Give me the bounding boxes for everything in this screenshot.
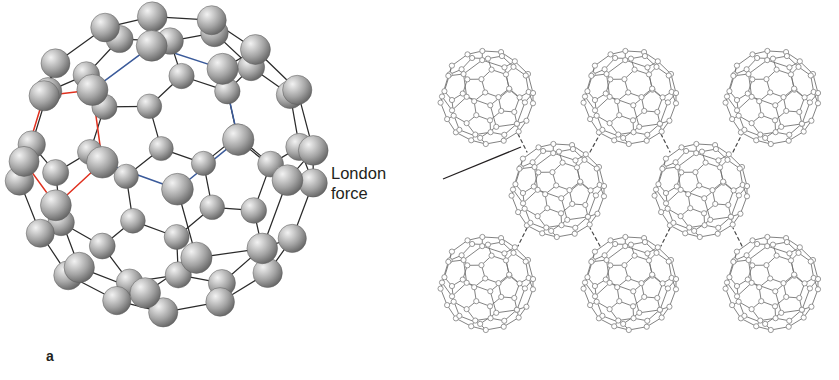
carbon-atom bbox=[40, 190, 71, 221]
carbon-atom bbox=[121, 208, 146, 233]
cage-node bbox=[465, 263, 470, 268]
cage-node bbox=[535, 214, 540, 219]
cage-node bbox=[665, 286, 670, 291]
carbon-atom bbox=[240, 35, 270, 65]
london-force-leader-line bbox=[443, 147, 521, 179]
cage-node bbox=[637, 124, 642, 129]
carbon-atom bbox=[162, 173, 194, 205]
cage-node bbox=[543, 192, 548, 197]
cage-bond bbox=[767, 60, 789, 67]
cage-node bbox=[750, 263, 755, 268]
cage-node bbox=[779, 124, 784, 129]
fullerene-cage bbox=[509, 141, 607, 239]
carbon-atom bbox=[149, 137, 173, 161]
cage-node bbox=[602, 67, 607, 72]
cage-node bbox=[615, 285, 620, 290]
cage-node bbox=[469, 324, 474, 329]
cage-node bbox=[478, 135, 483, 140]
cage-node bbox=[602, 253, 607, 258]
cage-node bbox=[536, 145, 541, 150]
carbon-atom bbox=[200, 195, 225, 220]
cage-node bbox=[512, 245, 517, 250]
carbon-atom bbox=[114, 164, 138, 188]
cage-node bbox=[565, 217, 570, 222]
cage-node bbox=[608, 77, 613, 82]
cage-node bbox=[594, 113, 599, 118]
cage-node bbox=[531, 184, 536, 189]
cage-node bbox=[686, 192, 691, 197]
cage-node bbox=[623, 58, 628, 63]
cage-node bbox=[730, 117, 735, 122]
cage-node bbox=[480, 48, 485, 53]
cage-node bbox=[764, 77, 769, 82]
cage-node bbox=[637, 310, 642, 315]
cage-node bbox=[809, 118, 814, 123]
cage-node bbox=[622, 263, 627, 268]
cage-node bbox=[702, 196, 707, 201]
carbon-atom bbox=[89, 233, 115, 259]
cage-node bbox=[731, 73, 736, 78]
cage-node bbox=[601, 183, 606, 188]
cage-node bbox=[674, 184, 679, 189]
cage-node bbox=[639, 95, 644, 100]
cage-node bbox=[655, 245, 660, 250]
cage-node bbox=[465, 238, 470, 243]
carbon-atom bbox=[29, 81, 59, 111]
cage-node bbox=[716, 225, 721, 230]
carbon-atom bbox=[103, 286, 131, 314]
atom-layer bbox=[5, 2, 328, 327]
cage-node bbox=[667, 304, 672, 309]
cage-node bbox=[522, 286, 527, 291]
cage-node bbox=[653, 187, 658, 192]
cage-node bbox=[469, 241, 474, 246]
cage-node bbox=[607, 307, 612, 312]
cage-node bbox=[499, 108, 504, 113]
cage-bond bbox=[625, 60, 647, 67]
carbon-atom bbox=[197, 6, 226, 35]
cage-node bbox=[659, 129, 664, 134]
cage-node bbox=[774, 67, 779, 72]
cage-node bbox=[745, 277, 750, 282]
cage-node bbox=[608, 238, 613, 243]
cage-node bbox=[727, 275, 732, 280]
cage-node bbox=[787, 65, 792, 70]
cage-node bbox=[496, 95, 501, 100]
london-force-link bbox=[733, 134, 742, 152]
cage-node bbox=[487, 304, 492, 309]
cage-node bbox=[773, 316, 778, 321]
cage-node bbox=[655, 109, 660, 114]
carbon-atom bbox=[136, 30, 167, 61]
cage-node bbox=[694, 151, 699, 156]
cage-node bbox=[787, 318, 792, 323]
fullerene-cage bbox=[581, 48, 679, 146]
cage-node bbox=[660, 281, 665, 286]
cage-node bbox=[713, 201, 718, 206]
cage-node bbox=[754, 324, 759, 329]
cage-node bbox=[445, 303, 450, 308]
cage-node bbox=[487, 118, 492, 123]
cage-node bbox=[512, 295, 517, 300]
cage-node bbox=[673, 276, 678, 281]
cage-node bbox=[673, 287, 678, 292]
cage-node bbox=[464, 307, 469, 312]
cage-node bbox=[530, 101, 535, 106]
cage-node bbox=[736, 193, 741, 198]
cage-node bbox=[514, 307, 519, 312]
carbon-atom bbox=[191, 151, 215, 175]
cage-node bbox=[815, 90, 820, 95]
cage-node bbox=[502, 318, 507, 323]
cage-node bbox=[574, 165, 579, 170]
cage-node bbox=[659, 210, 664, 215]
cage-node bbox=[772, 118, 777, 123]
cage-node bbox=[754, 55, 759, 60]
cage-node bbox=[666, 259, 671, 264]
cage-node bbox=[616, 132, 621, 137]
carbon-atom bbox=[169, 63, 194, 88]
cage-node bbox=[601, 194, 606, 199]
panel-label-a: a bbox=[46, 349, 54, 363]
cage-node bbox=[773, 130, 778, 135]
cage-node bbox=[479, 77, 484, 82]
cage-node bbox=[807, 286, 812, 291]
cage-node bbox=[530, 276, 535, 281]
cage-node bbox=[703, 160, 708, 165]
